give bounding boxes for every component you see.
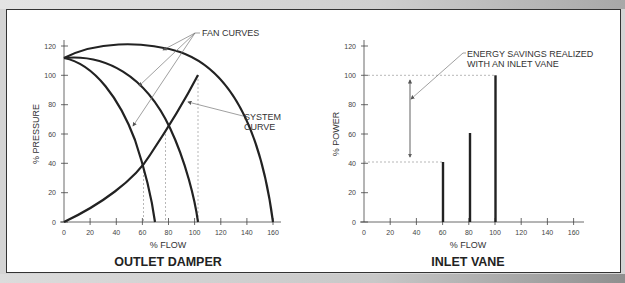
svg-text:0: 0 [62,229,66,236]
svg-text:40: 40 [48,160,56,167]
svg-text:160: 160 [267,229,279,236]
x-tick-labels: 0 20 40 60 80 100 120 140 160 [362,229,579,236]
savings-label-line1: ENERGY SAVINGS REALIZED [467,49,594,59]
fan-curve-mid [64,58,198,222]
svg-text:0: 0 [352,219,356,226]
chart-title: INLET VANE [431,255,504,269]
fan-curve-damped [64,58,155,222]
svg-text:100: 100 [344,72,356,79]
outlet-damper-chart: 0 20 40 60 80 100 120 0 20 40 60 80 100 … [31,28,281,269]
system-curve-label-line1: SYSTEM [244,112,281,122]
svg-text:20: 20 [86,229,94,236]
svg-text:120: 120 [44,43,56,50]
savings-arrow [410,53,466,157]
svg-text:60: 60 [48,131,56,138]
figure-canvas: 0 20 40 60 80 100 120 0 20 40 60 80 100 … [0,0,625,283]
svg-text:120: 120 [344,43,356,50]
fan-curves [64,44,273,222]
y-tick-labels: 0 20 40 60 80 100 120 [344,43,356,226]
system-curve-label-line2: CURVE [244,122,275,132]
svg-text:20: 20 [48,189,56,196]
x-tick-labels: 0 20 40 60 80 100 120 140 160 [62,229,279,236]
svg-text:60: 60 [348,131,356,138]
svg-text:80: 80 [348,101,356,108]
x-axis-label: % FLOW [150,240,187,250]
svg-text:40: 40 [112,229,120,236]
svg-text:80: 80 [48,101,56,108]
fan-curves-label: FAN CURVES [202,28,259,38]
y-axis-label: % POWER [331,111,341,156]
svg-text:160: 160 [568,229,580,236]
chart-title: OUTLET DAMPER [114,255,222,269]
svg-text:20: 20 [348,189,356,196]
svg-text:120: 120 [215,229,227,236]
svg-text:100: 100 [189,229,201,236]
svg-text:40: 40 [413,229,421,236]
svg-text:100: 100 [44,72,56,79]
savings-label-line2: WITH AN INLET VANE [467,59,559,69]
svg-text:0: 0 [362,229,366,236]
svg-text:80: 80 [465,229,473,236]
svg-text:140: 140 [241,229,253,236]
svg-text:120: 120 [515,229,527,236]
svg-text:40: 40 [348,160,356,167]
svg-text:140: 140 [542,229,554,236]
x-axis-label: % FLOW [450,240,487,250]
svg-text:20: 20 [386,229,394,236]
y-tick-labels: 0 20 40 60 80 100 120 [44,43,56,226]
inlet-vane-chart: 0 20 40 60 80 100 120 0 20 40 60 80 100 … [331,40,594,269]
svg-text:80: 80 [165,229,173,236]
svg-text:0: 0 [52,219,56,226]
fan-curve-full [64,44,273,222]
svg-text:60: 60 [439,229,447,236]
svg-text:60: 60 [139,229,147,236]
power-bars [443,75,496,222]
y-axis-label: % PRESSURE [31,104,41,164]
svg-text:100: 100 [489,229,501,236]
